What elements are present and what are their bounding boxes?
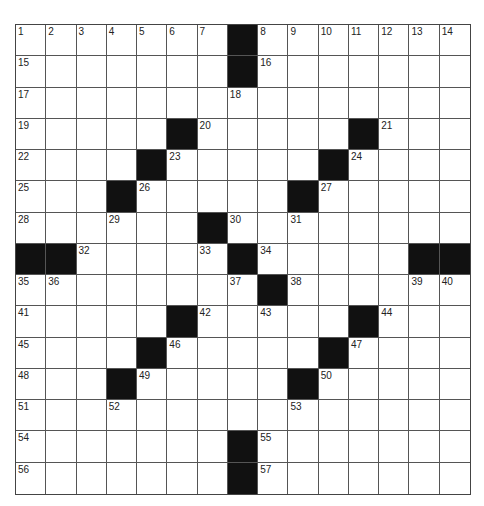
grid-cell[interactable] [107,119,137,150]
grid-cell[interactable] [77,275,107,306]
grid-cell[interactable] [349,56,379,87]
grid-cell[interactable]: 44 [379,306,409,337]
grid-cell[interactable] [107,338,137,369]
grid-cell[interactable] [46,181,76,212]
grid-cell[interactable] [440,119,470,150]
grid-cell[interactable] [288,306,318,337]
grid-cell[interactable] [319,400,349,431]
grid-cell[interactable]: 49 [137,369,167,400]
grid-cell[interactable] [107,463,137,494]
grid-cell[interactable]: 50 [319,369,349,400]
grid-cell[interactable]: 47 [349,338,379,369]
grid-cell[interactable] [349,244,379,275]
grid-cell[interactable]: 41 [16,306,46,337]
grid-cell[interactable]: 57 [258,463,288,494]
grid-cell[interactable] [228,150,258,181]
grid-cell[interactable]: 43 [258,306,288,337]
grid-cell[interactable] [77,150,107,181]
grid-cell[interactable] [379,463,409,494]
grid-cell[interactable] [440,400,470,431]
grid-cell[interactable] [379,88,409,119]
grid-cell[interactable]: 31 [288,213,318,244]
grid-cell[interactable]: 9 [288,25,318,56]
grid-cell[interactable]: 11 [349,25,379,56]
grid-cell[interactable]: 12 [379,25,409,56]
grid-cell[interactable] [137,56,167,87]
grid-cell[interactable]: 42 [198,306,228,337]
grid-cell[interactable]: 24 [349,150,379,181]
grid-cell[interactable] [137,244,167,275]
grid-cell[interactable] [167,244,197,275]
grid-cell[interactable] [167,56,197,87]
grid-cell[interactable]: 14 [440,25,470,56]
grid-cell[interactable] [137,306,167,337]
grid-cell[interactable] [379,369,409,400]
grid-cell[interactable] [46,213,76,244]
grid-cell[interactable] [319,431,349,462]
grid-cell[interactable] [349,431,379,462]
grid-cell[interactable] [167,213,197,244]
grid-cell[interactable]: 8 [258,25,288,56]
grid-cell[interactable] [107,88,137,119]
grid-cell[interactable] [379,181,409,212]
grid-cell[interactable] [228,306,258,337]
grid-cell[interactable] [409,431,439,462]
grid-cell[interactable] [77,463,107,494]
grid-cell[interactable] [258,213,288,244]
grid-cell[interactable] [77,119,107,150]
grid-cell[interactable] [167,400,197,431]
grid-cell[interactable] [349,400,379,431]
grid-cell[interactable] [409,150,439,181]
grid-cell[interactable] [167,275,197,306]
grid-cell[interactable] [258,369,288,400]
grid-cell[interactable] [137,463,167,494]
grid-cell[interactable] [137,119,167,150]
grid-cell[interactable] [288,338,318,369]
grid-cell[interactable]: 15 [16,56,46,87]
grid-cell[interactable]: 53 [288,400,318,431]
grid-cell[interactable] [137,400,167,431]
grid-cell[interactable]: 27 [319,181,349,212]
grid-cell[interactable] [319,275,349,306]
grid-cell[interactable] [409,181,439,212]
grid-cell[interactable]: 5 [137,25,167,56]
grid-cell[interactable] [107,275,137,306]
grid-cell[interactable] [228,369,258,400]
grid-cell[interactable] [137,431,167,462]
grid-cell[interactable] [46,88,76,119]
grid-cell[interactable] [349,369,379,400]
grid-cell[interactable] [409,400,439,431]
grid-cell[interactable] [198,56,228,87]
grid-cell[interactable] [167,431,197,462]
grid-cell[interactable]: 10 [319,25,349,56]
grid-cell[interactable] [379,244,409,275]
grid-cell[interactable] [107,56,137,87]
grid-cell[interactable]: 28 [16,213,46,244]
grid-cell[interactable] [46,431,76,462]
grid-cell[interactable] [440,306,470,337]
grid-cell[interactable] [440,56,470,87]
grid-cell[interactable] [288,463,318,494]
grid-cell[interactable] [319,306,349,337]
grid-cell[interactable] [46,119,76,150]
grid-cell[interactable]: 36 [46,275,76,306]
grid-cell[interactable] [440,431,470,462]
grid-cell[interactable] [77,88,107,119]
grid-cell[interactable]: 35 [16,275,46,306]
grid-cell[interactable]: 46 [167,338,197,369]
grid-cell[interactable]: 22 [16,150,46,181]
grid-cell[interactable]: 30 [228,213,258,244]
grid-cell[interactable] [319,244,349,275]
grid-cell[interactable]: 39 [409,275,439,306]
grid-cell[interactable] [198,463,228,494]
grid-cell[interactable]: 52 [107,400,137,431]
grid-cell[interactable] [137,213,167,244]
grid-cell[interactable]: 25 [16,181,46,212]
grid-cell[interactable] [46,338,76,369]
grid-cell[interactable] [349,275,379,306]
grid-cell[interactable] [46,306,76,337]
grid-cell[interactable]: 17 [16,88,46,119]
grid-cell[interactable] [379,400,409,431]
grid-cell[interactable] [409,306,439,337]
grid-cell[interactable] [198,181,228,212]
